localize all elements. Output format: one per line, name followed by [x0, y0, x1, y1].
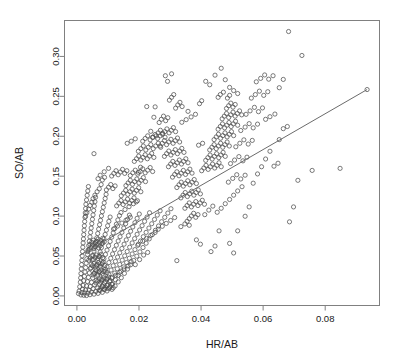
- y-tick-label: 0.05: [50, 247, 61, 266]
- x-tick-label: 0.06: [254, 313, 273, 324]
- y-tick-label: 0.10: [50, 207, 61, 226]
- plot-canvas: 0.000.050.100.150.200.250.30 0.000.020.0…: [0, 0, 398, 362]
- x-tick-label: 0.08: [316, 313, 335, 324]
- x-tick-label: 0.02: [130, 313, 149, 324]
- y-tick-label: 0.30: [50, 47, 61, 66]
- y-tick-label: 0.20: [50, 127, 61, 146]
- x-tick-label: 0.04: [192, 313, 211, 324]
- y-tick-label: 0.15: [50, 167, 61, 186]
- y-tick-label: 0.25: [50, 87, 61, 106]
- x-tick-label: 0.00: [68, 313, 87, 324]
- y-axis-title: SO/AB: [13, 147, 25, 179]
- y-tick-label: 0.00: [50, 287, 61, 306]
- x-axis-title: HR/AB: [206, 338, 238, 350]
- scatter-plot-figure: 0.000.050.100.150.200.250.30 0.000.020.0…: [0, 0, 398, 362]
